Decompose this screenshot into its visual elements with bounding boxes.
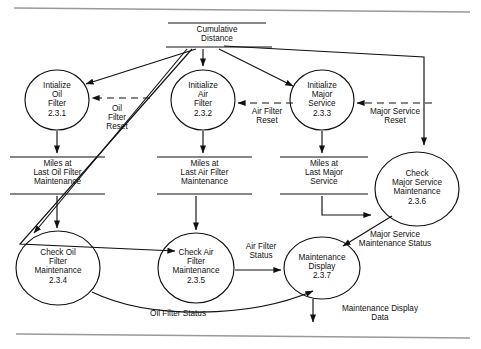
process-2-3-1-circle: [25, 70, 89, 130]
process-2-3-4-circle: [16, 231, 100, 305]
flow-cd-to-2-3-3: [219, 49, 293, 86]
dfd-vector-layer: [0, 0, 481, 349]
page-border-top: [14, 8, 470, 12]
flow-cd-to-2-3-1: [86, 49, 196, 84]
process-2-3-2-circle: [171, 70, 235, 130]
process-2-3-6-circle: [375, 152, 459, 226]
process-2-3-5-circle: [158, 233, 234, 303]
flow-major-service-maintenance-status: [343, 216, 392, 246]
process-2-3-3-circle: [290, 70, 354, 130]
flow-cd-to-2-3-5: [20, 49, 192, 251]
page-border-bottom: [16, 334, 470, 338]
flow-oil-filter-status: [92, 291, 313, 312]
flow-major-store-to-2-3-6: [322, 196, 371, 215]
dfd-canvas: Cumulative Distance Miles at Last Oil Fi…: [0, 0, 481, 349]
process-2-3-7-circle: [284, 237, 360, 299]
